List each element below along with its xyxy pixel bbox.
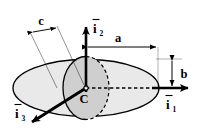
axis-label-i2: i 2 bbox=[93, 20, 104, 39]
axis-label-i1: i 1 bbox=[166, 96, 177, 115]
dimension-label-a: a bbox=[115, 31, 122, 45]
axis-label-i3-subscript: 3 bbox=[22, 114, 26, 123]
axis-label-i3-letter: i bbox=[15, 106, 19, 121]
dimension-b bbox=[156, 59, 182, 88]
axis-label-i3: i 3 bbox=[15, 105, 26, 124]
ellipsoid-diagram: i 2 i 1 i 3 a b c C bbox=[0, 0, 197, 133]
axis-label-i2-subscript: 2 bbox=[100, 29, 104, 38]
axis-label-i2-letter: i bbox=[93, 21, 97, 36]
dimension-label-c: c bbox=[38, 14, 44, 28]
dimension-label-b: b bbox=[181, 67, 188, 81]
diagram-canvas: i 2 i 1 i 3 a b c C bbox=[0, 0, 197, 133]
center-point-label: C bbox=[79, 92, 88, 106]
axis-label-i1-subscript: 1 bbox=[173, 105, 177, 114]
axis-label-i1-letter: i bbox=[166, 97, 170, 112]
